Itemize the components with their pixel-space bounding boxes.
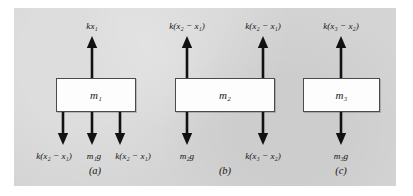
force-label-a-down-3: k(x₂ − x₁) [115,152,151,161]
arrow-up-b-1 [180,36,194,79]
force-label-a-down-1: k(x₂ − x₁) [36,152,72,161]
arrow-down-a-1 [56,112,70,145]
force-label-b-up-2: k(x₂ − x₁) [245,22,281,31]
force-label-a-up-1: kx₁ [86,22,97,31]
mass-box-b: m₂ [175,78,275,112]
arrow-down-b-2 [256,112,270,145]
force-label-a-down-2: m₁g [87,152,101,161]
force-label-b-up-1: k(x₂ − x₁) [169,22,205,31]
caption-c: (c) [335,166,347,177]
mass-box-c: m₃ [303,78,380,112]
mass-box-a: m₁ [56,78,136,112]
arrow-down-a-3 [113,112,127,145]
mass-label-b: m₂ [219,90,231,101]
arrow-up-a-1 [85,36,99,79]
force-label-b-down-1: m₂g [180,152,194,161]
force-label-c-up-1: k(x₃ − x₂) [323,22,359,31]
force-label-b-down-2: k(x₃ − x₂) [245,152,281,161]
mass-label-c: m₃ [335,90,347,101]
arrow-up-c-1 [334,36,348,79]
caption-a: (a) [89,166,101,177]
arrow-down-c-1 [334,112,348,145]
mass-label-a: m₁ [90,90,102,101]
force-label-c-down-1: m₃g [334,152,348,161]
arrow-down-b-1 [180,112,194,145]
free-body-diagram-figure: kx₁ m₁ k(x₂ − x₁) m₁g k(x₂ − x₁) (a) [0,0,413,196]
arrow-down-a-2 [85,112,99,145]
caption-b: (b) [219,166,231,177]
arrow-up-b-2 [256,36,270,79]
